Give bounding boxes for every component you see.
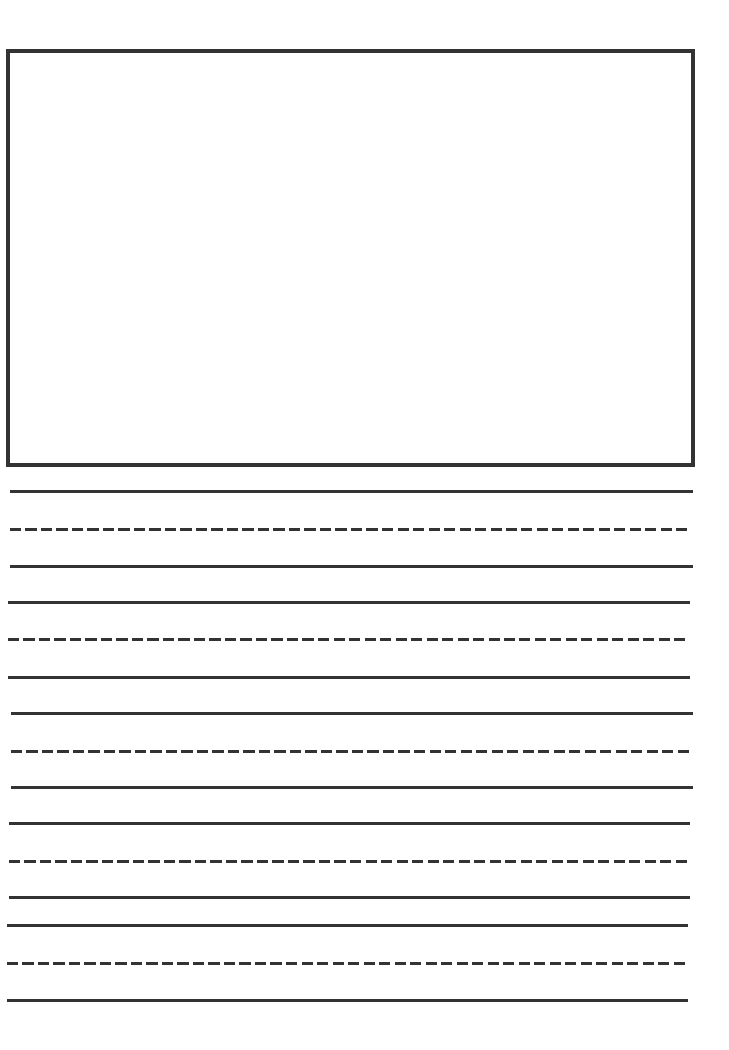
- top-line-solid: [8, 601, 690, 604]
- base-line-solid: [9, 896, 690, 899]
- base-line-solid: [7, 999, 688, 1002]
- midline-dashed: [8, 638, 687, 641]
- top-line-solid: [11, 712, 693, 715]
- midline-dashed: [7, 962, 685, 965]
- base-line-solid: [10, 565, 693, 568]
- midline-dashed: [11, 750, 690, 753]
- top-line-solid: [10, 490, 693, 493]
- drawing-box: [6, 49, 695, 467]
- base-line-solid: [8, 676, 690, 679]
- midline-dashed: [9, 860, 687, 863]
- top-line-solid: [9, 822, 690, 825]
- top-line-solid: [7, 924, 688, 927]
- midline-dashed: [10, 528, 690, 531]
- base-line-solid: [11, 786, 693, 789]
